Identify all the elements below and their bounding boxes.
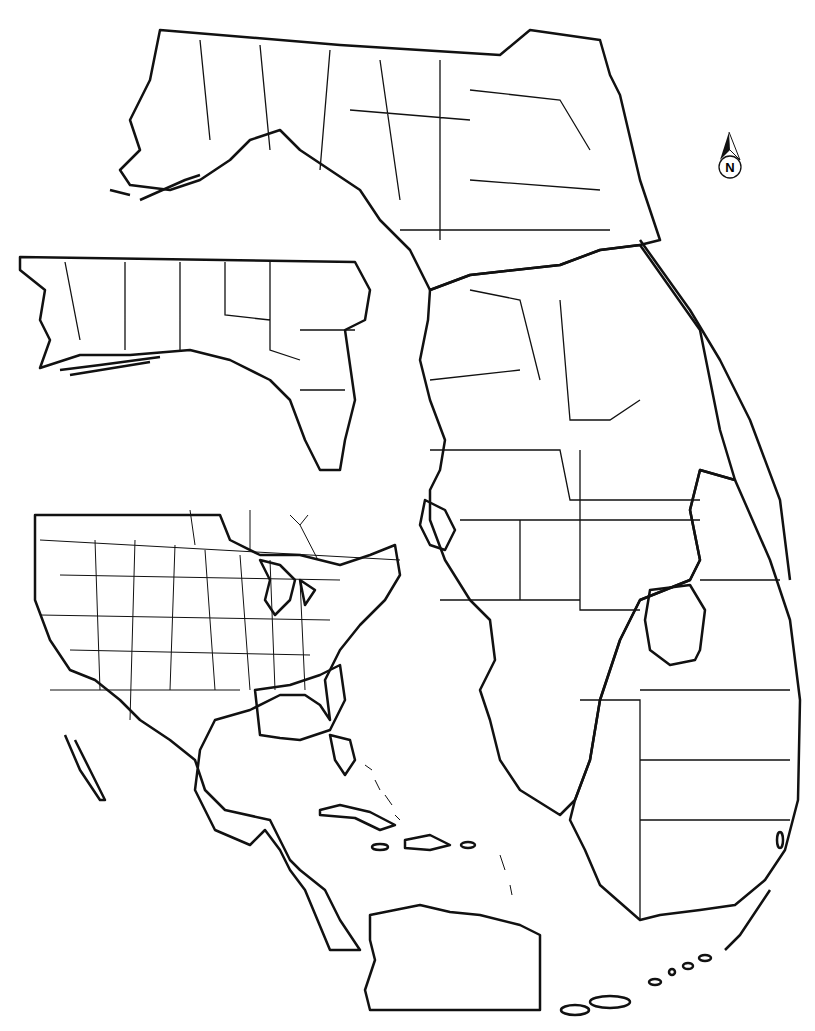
lake-okeechobee	[645, 585, 705, 665]
county-lines	[200, 40, 790, 920]
zone-range-central-florida	[420, 245, 735, 815]
panhandle-inset-county-lines	[65, 262, 355, 390]
inset-florida	[330, 735, 355, 775]
pensacola-bay-islands	[60, 357, 160, 375]
florida-main	[110, 30, 800, 920]
florida-keys	[561, 832, 783, 1015]
north-arrow-label: N	[725, 160, 734, 175]
north-arrow: N	[719, 132, 741, 178]
range-map: N	[0, 0, 815, 1031]
state-lines	[40, 540, 400, 720]
americas-inset	[35, 510, 540, 1010]
zone-dense-north-florida	[120, 30, 660, 290]
zone-range-south-america	[365, 905, 540, 1010]
zone-range-north-america	[35, 515, 400, 950]
panhandle-inset	[20, 257, 370, 470]
great-lakes	[260, 560, 315, 615]
zone-dense-southeastern-us	[255, 665, 345, 740]
baja-california	[65, 735, 105, 800]
zone-absent-south-florida	[570, 470, 800, 920]
caribbean-islands	[320, 765, 512, 895]
zone-dense-panhandle-inset	[20, 257, 370, 470]
